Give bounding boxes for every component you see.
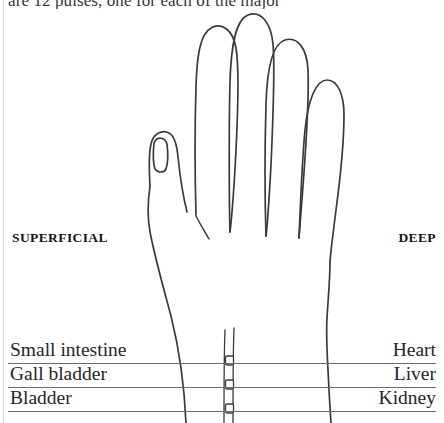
row-label-left-1: Small intestine (10, 339, 126, 361)
figure-page: are 12 pulses, one for each of the major (0, 0, 444, 423)
row-label-right-1: Heart (393, 339, 436, 361)
row-label-left-3: Bladder (10, 387, 72, 409)
row-label-right-2: Liver (394, 363, 436, 385)
row-rule-2 (8, 387, 436, 388)
row-rule-3 (8, 411, 436, 412)
row-label-right-3: Kidney (379, 387, 436, 409)
pulse-position-table: Small intestine Heart Gall bladder Liver… (0, 0, 444, 423)
row-label-left-2: Gall bladder (10, 363, 107, 385)
